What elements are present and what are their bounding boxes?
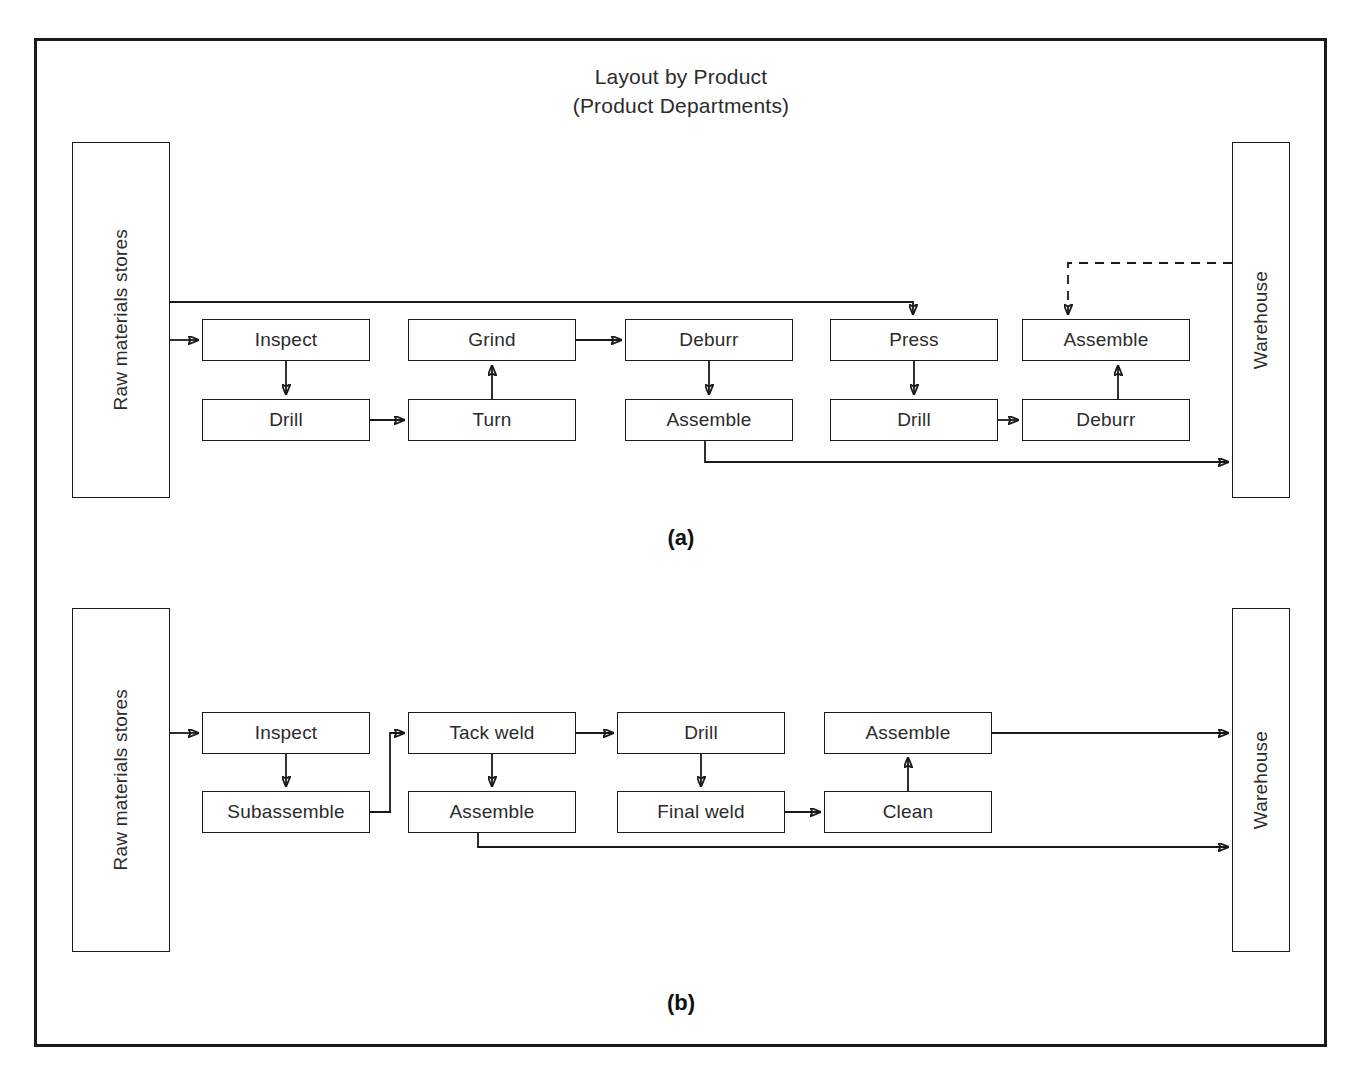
panel-a-box-deburr-bottom[interactable]: Deburr	[1022, 399, 1190, 441]
panel-a-box-grind[interactable]: Grind	[408, 319, 576, 361]
panel-b-raw-materials-stores[interactable]: Raw materials stores	[72, 608, 170, 952]
figure-canvas: Layout by Product(Product Departments) R…	[0, 0, 1362, 1070]
panel-a-raw-materials-stores[interactable]: Raw materials stores	[72, 142, 170, 498]
panel-b-raw-materials-stores-label: Raw materials stores	[110, 689, 132, 870]
panel-a-box-turn[interactable]: Turn	[408, 399, 576, 441]
panel-a-box-inspect[interactable]: Inspect	[202, 319, 370, 361]
panel-a-warehouse[interactable]: Warehouse	[1232, 142, 1290, 498]
panel-a-box-drill-left[interactable]: Drill	[202, 399, 370, 441]
panel-b-box-subassemble[interactable]: Subassemble	[202, 791, 370, 833]
panel-b-caption: (b)	[621, 990, 741, 1016]
panel-a-warehouse-label: Warehouse	[1250, 271, 1272, 369]
panel-a-box-assemble-top[interactable]: Assemble	[1022, 319, 1190, 361]
panel-b-box-inspect[interactable]: Inspect	[202, 712, 370, 754]
figure-title: Layout by Product(Product Departments)	[0, 62, 1362, 120]
panel-b-box-assemble-top[interactable]: Assemble	[824, 712, 992, 754]
panel-a-box-drill-right[interactable]: Drill	[830, 399, 998, 441]
figure-title-line-2: (Product Departments)	[573, 94, 790, 117]
panel-b-box-assemble-bottom[interactable]: Assemble	[408, 791, 576, 833]
panel-a-caption: (a)	[621, 525, 741, 551]
panel-a-box-press[interactable]: Press	[830, 319, 998, 361]
figure-title-line-1: Layout by Product	[595, 65, 768, 88]
panel-a-box-assemble-bottom[interactable]: Assemble	[625, 399, 793, 441]
panel-b-warehouse[interactable]: Warehouse	[1232, 608, 1290, 952]
panel-b-box-final-weld[interactable]: Final weld	[617, 791, 785, 833]
panel-b-box-drill[interactable]: Drill	[617, 712, 785, 754]
panel-b-warehouse-label: Warehouse	[1250, 731, 1272, 829]
panel-a-raw-materials-stores-label: Raw materials stores	[110, 229, 132, 410]
panel-b-box-clean[interactable]: Clean	[824, 791, 992, 833]
panel-b-box-tack-weld[interactable]: Tack weld	[408, 712, 576, 754]
panel-a-box-deburr-top[interactable]: Deburr	[625, 319, 793, 361]
